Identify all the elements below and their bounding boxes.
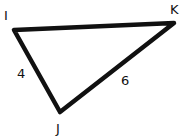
side-label-jk: 6 bbox=[121, 73, 129, 88]
triangle-ijk bbox=[14, 23, 174, 112]
side-label-ij: 4 bbox=[17, 66, 25, 81]
vertex-label-j: J bbox=[55, 121, 60, 136]
vertex-label-k: K bbox=[170, 2, 179, 17]
vertex-label-i: I bbox=[4, 8, 8, 23]
triangle-diagram: I K J 4 6 bbox=[0, 0, 182, 136]
